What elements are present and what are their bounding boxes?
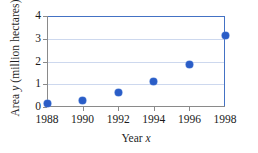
- x-tick-label: 1990: [63, 114, 103, 126]
- x-tick-mark: [189, 107, 190, 111]
- x-axis-title: Year x: [47, 132, 225, 144]
- scatter-chart-figure: Area y (million hectares) 01234198819901…: [0, 0, 258, 153]
- gridline-y: [47, 39, 225, 40]
- y-tick-mark: [43, 107, 47, 108]
- y-tick-label: 0: [27, 101, 41, 113]
- y-axis-title-variable: y: [9, 86, 21, 91]
- gridline-y: [47, 62, 225, 63]
- y-tick-label: 2: [27, 56, 41, 68]
- plot-area: 01234198819901992199419961998: [47, 16, 225, 107]
- gridline-y: [47, 84, 225, 85]
- data-point: [222, 32, 229, 39]
- x-tick-mark: [83, 107, 84, 111]
- x-tick-label: 1992: [98, 114, 138, 126]
- y-tick-label: 4: [27, 10, 41, 22]
- y-tick-label: 1: [27, 78, 41, 90]
- y-axis-title-suffix: (million hectares): [9, 0, 21, 86]
- x-tick-label: 1994: [134, 114, 174, 126]
- x-tick-label: 1998: [205, 114, 245, 126]
- data-point: [115, 89, 122, 96]
- y-axis-title-prefix: Area: [9, 91, 21, 117]
- plot-frame-right: [224, 16, 225, 107]
- data-point: [44, 100, 51, 107]
- x-axis-title-prefix: Year: [121, 132, 145, 144]
- x-tick-label: 1988: [27, 114, 67, 126]
- data-point: [79, 97, 86, 104]
- x-axis-title-variable: x: [145, 132, 150, 144]
- data-point: [186, 61, 193, 68]
- plot-frame-top: [47, 16, 225, 17]
- y-axis-title: Area y (million hectares): [9, 0, 21, 117]
- x-tick-mark: [118, 107, 119, 111]
- y-axis-line: [47, 16, 48, 107]
- x-axis-line: [47, 106, 225, 107]
- x-tick-label: 1996: [169, 114, 209, 126]
- x-tick-mark: [154, 107, 155, 111]
- y-tick-label: 3: [27, 33, 41, 45]
